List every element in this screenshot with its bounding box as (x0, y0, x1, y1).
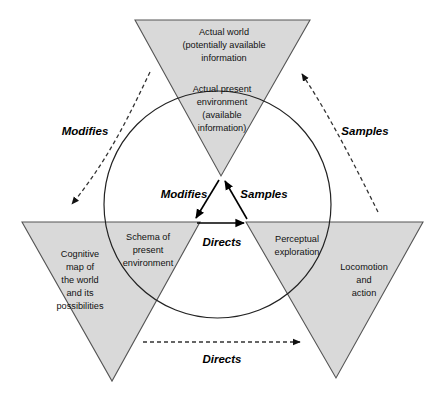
cognitive-map-line-3: the world (61, 275, 98, 285)
locomotion-line-3: action (352, 288, 377, 298)
schema-line-2: present (133, 245, 164, 255)
perceptual-line-2: exploration (275, 247, 320, 257)
label-outer-samples: Samples (341, 125, 388, 137)
locomotion-line-2: and (356, 275, 371, 285)
actual-world-line-1: Actual world (199, 27, 249, 37)
triangle-cognitive-map (22, 222, 200, 381)
actual-world-line-3: information (201, 53, 246, 63)
arrow-outer-modifies (72, 72, 150, 204)
locomotion-line-1: Locomotion (340, 262, 388, 272)
cognitive-map-line-1: Cognitive (61, 249, 99, 259)
actual-present-line-3: (available (202, 110, 241, 120)
diagram-canvas: Actual world (potentially available info… (0, 0, 440, 399)
actual-present-line-2: environment (197, 97, 248, 107)
actual-present-line-1: Actual present (193, 84, 252, 94)
schema-line-1: Schema of (126, 232, 170, 242)
label-inner-samples: Samples (240, 188, 287, 200)
label-inner-modifies: Modifies (161, 188, 208, 200)
perceptual-line-1: Perceptual (275, 234, 319, 244)
actual-present-line-4: information) (198, 123, 247, 133)
schema-line-3: environment (123, 258, 174, 268)
cognitive-map-line-4: and its (66, 288, 93, 298)
triangle-locomotion-and-action (246, 222, 423, 378)
perceptual-cycle-diagram: Actual world (potentially available info… (0, 0, 440, 399)
label-cognitive-map: Cognitive map of the world and its possi… (57, 249, 104, 311)
label-outer-directs: Directs (203, 353, 242, 365)
actual-world-line-2: (potentially available (182, 40, 265, 50)
label-inner-directs: Directs (203, 236, 242, 248)
cognitive-map-line-2: map of (66, 262, 95, 272)
label-outer-modifies: Modifies (62, 125, 109, 137)
cognitive-map-line-5: possibilities (57, 301, 104, 311)
